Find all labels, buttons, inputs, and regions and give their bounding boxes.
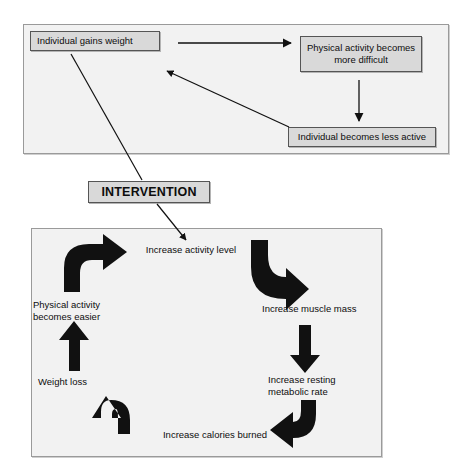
box-physical-activity-more-difficult: Physical activity becomes more difficult xyxy=(300,36,422,72)
box-individual-becomes-less-active: Individual becomes less active xyxy=(288,127,436,147)
virtuous-cycle-panel xyxy=(31,228,382,457)
label-increase-resting-metabolic-rate: Increase resting metabolic rate xyxy=(268,374,368,398)
box-individual-gains-weight: Individual gains weight xyxy=(30,31,160,51)
box-intervention: INTERVENTION xyxy=(88,181,210,203)
label-increase-activity-level: Increase activity level xyxy=(133,244,249,256)
label-increase-calories-burned: Increase calories burned xyxy=(152,429,278,441)
label-weight-loss: Weight loss xyxy=(38,376,118,388)
label-physical-activity-becomes-easier: Physical activity becomes easier xyxy=(33,299,129,323)
label-increase-muscle-mass: Increase muscle mass xyxy=(262,303,372,315)
diagram-canvas: Individual gains weight Physical activit… xyxy=(0,0,464,476)
